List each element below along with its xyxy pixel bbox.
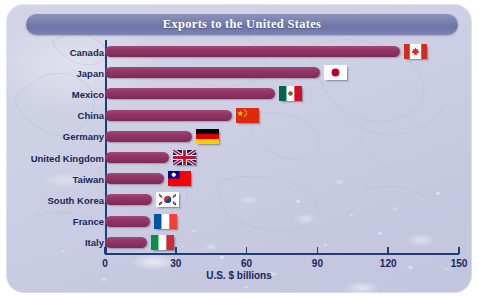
flag-germany-icon	[196, 129, 219, 144]
category-label-japan: Japan	[77, 68, 104, 79]
category-label-germany: Germany	[63, 131, 104, 142]
plot-area: 0306090120150 CanadaJapanMexicoChinaGerm…	[6, 4, 472, 293]
category-label-china: China	[78, 110, 104, 121]
flag-china-icon	[236, 108, 259, 123]
x-axis-tick	[387, 247, 389, 254]
flag-japan-icon	[324, 65, 347, 80]
flag-italy-icon	[151, 235, 174, 250]
x-axis-tick	[458, 247, 460, 254]
category-label-mexico: Mexico	[72, 89, 104, 100]
x-axis-label: U.S. $ billions	[6, 270, 472, 281]
category-label-taiwan: Taiwan	[73, 174, 105, 185]
category-label-italy: Italy	[85, 237, 104, 248]
category-label-canada: Canada	[70, 47, 104, 58]
x-axis-tick	[317, 247, 319, 254]
x-axis-tick	[175, 247, 177, 254]
flag-taiwan-icon	[168, 171, 191, 186]
bar-mexico	[105, 88, 275, 99]
flag-south-korea-icon	[156, 192, 179, 207]
bar-france	[105, 216, 150, 227]
bar-italy	[105, 237, 147, 248]
chart-panel: Exports to the United States 03060901201…	[6, 4, 472, 293]
x-axis-tick-label: 0	[102, 258, 108, 269]
bar-china	[105, 110, 232, 121]
bar-germany	[105, 131, 192, 142]
flag-france-icon	[154, 214, 177, 229]
flag-mexico-icon	[279, 86, 302, 101]
bar-taiwan	[105, 173, 164, 184]
flag-canada-icon	[404, 44, 427, 59]
category-label-france: France	[73, 216, 104, 227]
bar-south-korea	[105, 194, 152, 205]
x-axis-tick-label: 90	[312, 258, 323, 269]
x-axis-tick-label: 120	[380, 258, 397, 269]
x-axis-tick	[246, 247, 248, 254]
category-label-united-kingdom: United Kingdom	[31, 153, 104, 164]
x-axis-line	[105, 253, 459, 255]
category-label-south-korea: South Korea	[48, 195, 104, 206]
flag-united-kingdom-icon	[173, 150, 196, 165]
bar-united-kingdom	[105, 152, 169, 163]
bar-japan	[105, 67, 320, 78]
bar-canada	[105, 46, 400, 57]
x-axis-tick-label: 30	[170, 258, 181, 269]
x-axis-tick	[104, 247, 106, 254]
x-axis-tick-label: 60	[241, 258, 252, 269]
x-axis-tick-label: 150	[451, 258, 468, 269]
chart-screenshot: Exports to the United States 03060901201…	[0, 0, 478, 297]
